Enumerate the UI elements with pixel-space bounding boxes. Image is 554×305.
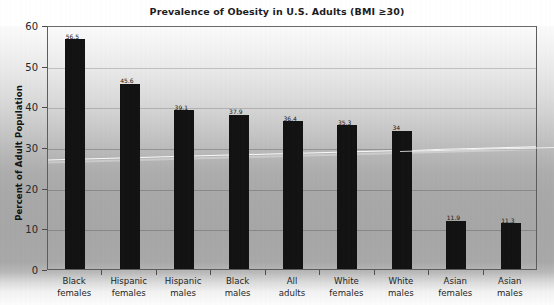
chart-screenshot: Prevalence of Obesity in U.S. Adults (BM… — [0, 0, 554, 305]
y-tick-label: 60 — [8, 21, 38, 32]
x-category-label: Whitefemales — [315, 276, 377, 299]
x-category-label-line: White — [370, 276, 432, 288]
bar-value-label: 35.3 — [338, 119, 351, 126]
x-category-label: Hispanicmales — [152, 276, 214, 299]
x-category-label-line: females — [424, 288, 486, 300]
bar — [229, 115, 249, 269]
y-tick-mark — [42, 270, 47, 271]
bar-value-label: 39.1 — [175, 104, 188, 111]
bar — [65, 39, 85, 269]
bar-value-label: 45.6 — [120, 77, 133, 84]
x-tick-mark — [156, 270, 157, 275]
bar-value-label: 11.9 — [447, 214, 460, 221]
x-category-label-line: females — [315, 288, 377, 300]
x-category-label-line: All — [261, 276, 323, 288]
bar — [174, 110, 194, 269]
bar-value-label: 34 — [392, 124, 400, 131]
x-tick-mark — [428, 270, 429, 275]
x-tick-mark — [265, 270, 266, 275]
x-category-label-line: Black — [43, 276, 105, 288]
x-category-label: Blackmales — [207, 276, 269, 299]
bar — [446, 221, 466, 269]
x-category-label-line: Asian — [424, 276, 486, 288]
page-title: Prevalence of Obesity in U.S. Adults (BM… — [0, 6, 554, 17]
y-axis-title: Percent of Adult Population — [14, 63, 24, 243]
x-category-label-line: females — [98, 288, 160, 300]
bar-value-label: 11.3 — [501, 217, 514, 224]
x-category-label-line: Asian — [479, 276, 541, 288]
x-category-label: Asianmales — [479, 276, 541, 299]
x-category-label-line: Black — [207, 276, 269, 288]
x-tick-mark — [210, 270, 211, 275]
x-category-label-line: males — [207, 288, 269, 300]
x-category-label: Whitemales — [370, 276, 432, 299]
x-category-label-line: females — [43, 288, 105, 300]
bar — [501, 223, 521, 269]
x-tick-mark — [483, 270, 484, 275]
x-category-label-line: Hispanic — [152, 276, 214, 288]
bar — [120, 84, 140, 269]
plot-area: 56.545.639.137.936.435.33411.911.3 — [47, 26, 537, 270]
x-category-label: Hispanicfemales — [98, 276, 160, 299]
bar — [337, 125, 357, 269]
x-category-label-line: males — [152, 288, 214, 300]
y-tick-label: 0 — [8, 265, 38, 276]
x-category-label: Alladults — [261, 276, 323, 299]
x-category-label-line: Hispanic — [98, 276, 160, 288]
x-tick-mark — [319, 270, 320, 275]
bar — [283, 121, 303, 269]
x-tick-mark — [101, 270, 102, 275]
x-category-label: Asianfemales — [424, 276, 486, 299]
gridline-50 — [48, 68, 536, 69]
bar-value-label: 36.4 — [284, 115, 297, 122]
x-category-label-line: White — [315, 276, 377, 288]
bar-value-label: 56.5 — [66, 33, 79, 40]
bar-value-label: 37.9 — [229, 108, 242, 115]
x-category-label-line: males — [370, 288, 432, 300]
x-category-label: Blackfemales — [43, 276, 105, 299]
x-category-label-line: adults — [261, 288, 323, 300]
x-tick-mark — [374, 270, 375, 275]
x-category-label-line: males — [479, 288, 541, 300]
plot-inner: 56.545.639.137.936.435.33411.911.3 — [48, 27, 536, 269]
